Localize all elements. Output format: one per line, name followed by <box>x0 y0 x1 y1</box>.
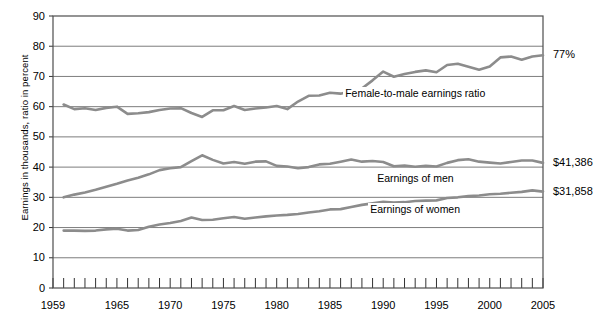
x-axis-minor-ticks <box>53 278 543 288</box>
series-lines <box>64 55 543 231</box>
end-value-earnings-of-women: $31,858 <box>553 186 593 197</box>
gridlines <box>53 46 543 258</box>
plot-border <box>53 16 543 288</box>
series-label-female-to-male-earnings-ratio: Female-to-male earnings ratio <box>343 87 487 100</box>
chart-plot-area <box>0 0 600 323</box>
chart-figure: Earnings in thousands, ratio in percent … <box>0 0 600 323</box>
end-value-earnings-of-men: $41,386 <box>553 157 593 168</box>
series-label-earnings-of-women: Earnings of women <box>368 203 462 216</box>
series-label-earnings-of-men: Earnings of men <box>375 172 455 185</box>
end-value-female-to-male-earnings-ratio: 77% <box>553 49 575 60</box>
